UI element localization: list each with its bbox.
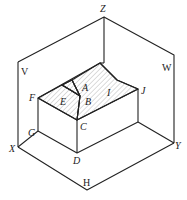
label-x: X bbox=[9, 144, 15, 154]
label-z: Z bbox=[100, 4, 106, 14]
plane-v-outline bbox=[18, 17, 104, 63]
label-g: G bbox=[28, 128, 35, 138]
label-i: I bbox=[107, 88, 110, 98]
label-e: E bbox=[60, 97, 66, 107]
label-h: H bbox=[83, 178, 90, 188]
label-c: C bbox=[80, 122, 87, 132]
label-w: W bbox=[162, 63, 171, 73]
proj-j-y bbox=[138, 122, 174, 143]
label-f: F bbox=[29, 93, 35, 103]
label-v: V bbox=[21, 67, 28, 77]
plane-h-outline bbox=[18, 143, 174, 190]
edge-gd bbox=[38, 122, 138, 153]
label-b: B bbox=[85, 97, 91, 107]
figure-caption bbox=[8, 193, 118, 200]
label-y: Y bbox=[175, 141, 181, 151]
label-a: A bbox=[82, 83, 88, 93]
label-d: D bbox=[73, 156, 80, 166]
label-j: J bbox=[141, 86, 145, 96]
